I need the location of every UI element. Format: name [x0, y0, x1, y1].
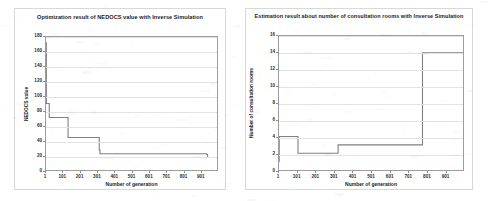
y-tick-label: 0 [39, 169, 42, 174]
y-tick-mark [43, 51, 45, 52]
x-tick-mark [371, 171, 372, 173]
y-tick-mark [43, 111, 45, 112]
x-tick-label: 501 [367, 175, 375, 180]
x-tick-mark [45, 171, 46, 173]
x-axis-title-right: Number of generation [278, 182, 464, 187]
y-tick-mark [276, 137, 278, 138]
x-tick-mark [166, 171, 167, 173]
y-tick-label: 40 [37, 139, 42, 144]
scan-artifact [232, 105, 237, 106]
y-tick-label: 6 [272, 118, 275, 123]
chart-nedocs-optimization: Optimization result of NEDOCS value with… [14, 8, 226, 190]
scan-artifact [247, 199, 255, 201]
x-tick-mark [390, 171, 391, 173]
gridline [279, 104, 463, 105]
gridline [46, 67, 217, 68]
y-tick-mark [276, 103, 278, 104]
x-tick-mark [278, 171, 279, 173]
y-tick-mark [276, 52, 278, 53]
chart-consultation-rooms-estimation: Estimation result about number of consul… [245, 8, 473, 190]
y-tick-mark [276, 154, 278, 155]
y-tick-label: 2 [272, 152, 275, 157]
y-tick-label: 60 [37, 124, 42, 129]
x-tick-label: 901 [442, 175, 450, 180]
gridline [279, 155, 463, 156]
x-tick-mark [446, 171, 447, 173]
gridline [279, 53, 463, 54]
x-tick-mark [80, 171, 81, 173]
y-tick-mark [43, 66, 45, 67]
x-tick-label: 901 [197, 175, 205, 180]
x-tick-mark [149, 171, 150, 173]
scan-artifact [339, 195, 342, 197]
x-tick-label: 401 [349, 175, 357, 180]
series-line-nedocs [46, 37, 217, 170]
x-tick-mark [352, 171, 353, 173]
gridline [46, 97, 217, 98]
gridline [46, 37, 217, 38]
x-tick-mark [427, 171, 428, 173]
x-tick-label: 601 [145, 175, 153, 180]
x-tick-label: 601 [386, 175, 394, 180]
x-tick-label: 201 [311, 175, 319, 180]
y-tick-mark [43, 36, 45, 37]
y-tick-label: 80 [37, 109, 42, 114]
x-tick-label: 501 [128, 175, 136, 180]
x-tick-label: 801 [423, 175, 431, 180]
gridline [46, 142, 217, 143]
x-tick-mark [334, 171, 335, 173]
x-tick-mark [315, 171, 316, 173]
plot-wrapper-right: 0246810121416 11012013014015016017018019… [246, 9, 472, 189]
scan-artifact [232, 56, 237, 57]
x-tick-label: 1 [277, 175, 280, 180]
y-tick-label: 100 [34, 94, 42, 99]
x-tick-mark [184, 171, 185, 173]
y-tick-label: 14 [270, 50, 275, 55]
x-tick-label: 401 [110, 175, 118, 180]
y-tick-label: 16 [270, 33, 275, 38]
gridline [46, 157, 217, 158]
y-tick-label: 160 [34, 49, 42, 54]
y-tick-label: 120 [34, 79, 42, 84]
x-tick-label: 301 [330, 175, 338, 180]
y-tick-mark [43, 156, 45, 157]
y-tick-label: 20 [37, 154, 42, 159]
gridline [46, 52, 217, 53]
x-tick-mark [114, 171, 115, 173]
y-tick-mark [276, 86, 278, 87]
gridline [46, 112, 217, 113]
x-tick-label: 201 [76, 175, 84, 180]
gridline [279, 121, 463, 122]
gridline [46, 82, 217, 83]
gridline [279, 87, 463, 88]
plot-area-left [45, 36, 218, 171]
y-tick-label: 4 [272, 135, 275, 140]
y-tick-label: 140 [34, 64, 42, 69]
x-tick-mark [132, 171, 133, 173]
x-tick-mark [62, 171, 63, 173]
x-tick-mark [297, 171, 298, 173]
gridline [279, 36, 463, 37]
scan-artifact [271, 199, 274, 201]
x-axis-title-left: Number of generation [45, 182, 218, 187]
y-tick-label: 12 [270, 67, 275, 72]
x-tick-label: 101 [293, 175, 301, 180]
y-axis-title-left: NEDOCS value [25, 86, 30, 120]
plot-wrapper-left: 020406080100120140160180 110120130140150… [15, 9, 225, 189]
gridline [46, 127, 217, 128]
series-line-rooms [279, 36, 463, 170]
x-tick-label: 701 [162, 175, 170, 180]
x-tick-mark [201, 171, 202, 173]
x-tick-label: 801 [180, 175, 188, 180]
x-tick-label: 301 [93, 175, 101, 180]
y-tick-mark [276, 35, 278, 36]
scan-artifact [335, 193, 344, 196]
scan-artifact [479, 1, 488, 3]
y-tick-mark [43, 126, 45, 127]
gridline [279, 138, 463, 139]
scan-artifact [474, 76, 480, 78]
y-tick-label: 180 [34, 34, 42, 39]
scan-artifact [1, 105, 5, 107]
y-tick-mark [276, 120, 278, 121]
